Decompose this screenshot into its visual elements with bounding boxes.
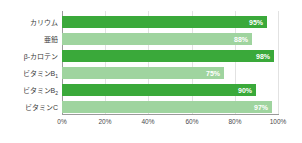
xtick-label-100: 100% xyxy=(258,119,298,126)
category-label-text: ビタミンB xyxy=(23,70,56,77)
category-label-vitamin-b1: ビタミンB1 xyxy=(0,70,58,77)
bar-value-label: 90% xyxy=(238,87,256,94)
bar-row: 75% xyxy=(62,67,224,79)
bar-value-label: 97% xyxy=(254,104,272,111)
category-label-aen: 亜鉛 xyxy=(0,36,58,43)
bar-beta-carotene: 98% xyxy=(62,50,274,62)
category-label-vitamin-b2: ビタミンB2 xyxy=(0,87,58,94)
bar-karium: 95% xyxy=(62,16,267,28)
bar-row: 90% xyxy=(62,84,256,96)
bar-chart: 95% 88% 98% 75% 90% 97% xyxy=(0,0,302,143)
bar-value-label: 88% xyxy=(234,36,252,43)
bar-row: 98% xyxy=(62,50,274,62)
subscript-1: 1 xyxy=(55,73,58,79)
gridline-100 xyxy=(278,11,279,114)
bar-vitamin-b2: 90% xyxy=(62,84,256,96)
bar-vitamin-b1: 75% xyxy=(62,67,224,79)
bar-vitamin-c: 97% xyxy=(62,101,272,113)
bar-value-label: 75% xyxy=(206,70,224,77)
xtick-label-60: 60% xyxy=(172,119,212,126)
category-label-karium: カリウム xyxy=(0,19,58,26)
bar-value-label: 98% xyxy=(256,53,274,60)
plot-area: 95% 88% 98% 75% 90% 97% xyxy=(62,11,278,114)
xtick-label-40: 40% xyxy=(128,119,168,126)
category-label-text: ビタミンB xyxy=(23,87,56,94)
xtick-label-20: 20% xyxy=(85,119,125,126)
xtick-label-80: 80% xyxy=(215,119,255,126)
bar-row: 95% xyxy=(62,16,267,28)
bar-value-label: 95% xyxy=(249,19,267,26)
bar-row: 97% xyxy=(62,101,272,113)
bar-row: 88% xyxy=(62,33,252,45)
subscript-2: 2 xyxy=(55,90,58,96)
bar-aen: 88% xyxy=(62,33,252,45)
xtick-label-0: 0% xyxy=(42,119,82,126)
category-label-beta-carotene: β-カロテン xyxy=(0,53,58,60)
x-axis-line xyxy=(62,114,279,115)
category-label-vitamin-c: ビタミンC xyxy=(0,104,58,111)
